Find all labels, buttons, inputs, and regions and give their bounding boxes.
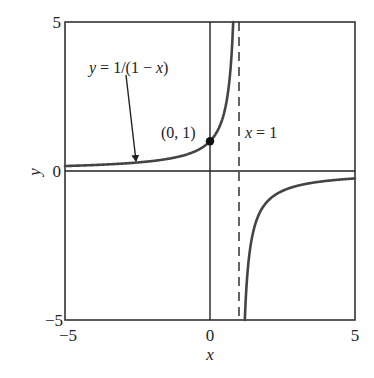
y-axis-title: y: [25, 168, 44, 178]
x-axis-title: x: [205, 345, 214, 364]
curve-right-branch: [245, 178, 355, 320]
curve-label-close: ): [163, 59, 168, 77]
point-marker: [206, 137, 214, 145]
y-tick-label-5: 5: [53, 13, 62, 32]
x-tick-label-neg5: −5: [59, 326, 77, 345]
curve-label-x: x: [155, 59, 163, 76]
curve-equation-label: y = 1/(1 − x): [87, 59, 168, 77]
x-tick-label-0: 0: [206, 326, 215, 345]
point-label: (0, 1): [161, 124, 196, 142]
asymptote-label: x = 1: [244, 124, 277, 141]
y-tick-label-0: 0: [53, 162, 62, 181]
x-tick-label-5: 5: [351, 326, 360, 345]
curve-label-mid: = 1/(1 −: [96, 59, 156, 77]
annotation-arrow: [126, 75, 136, 161]
chart: 5 0 −5 −5 0 5 x y y = 1/(1 − x) (0, 1) x…: [0, 0, 374, 378]
chart-svg: 5 0 −5 −5 0 5 x y y = 1/(1 − x) (0, 1) x…: [0, 0, 374, 378]
asymptote-label-rest: = 1: [252, 124, 277, 141]
asymptote-label-x: x: [244, 124, 252, 141]
